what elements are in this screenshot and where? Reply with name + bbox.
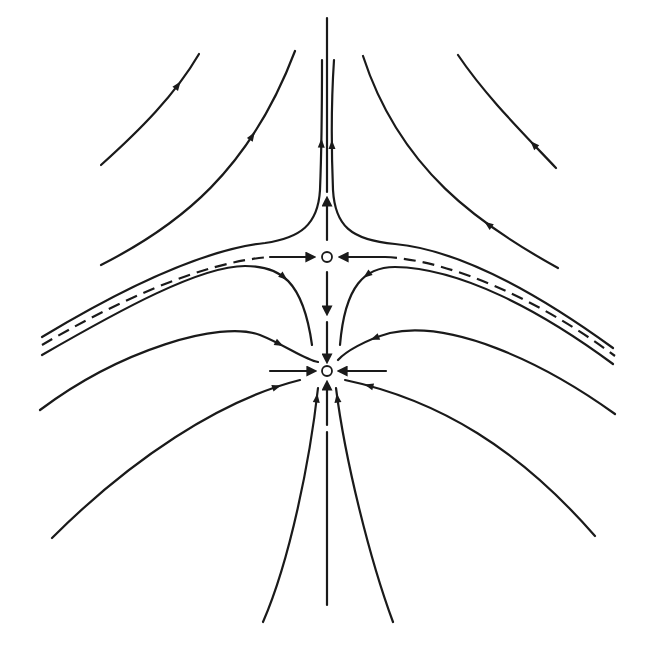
arrowhead-icon — [318, 139, 325, 148]
traj-lower-left-2 — [52, 380, 300, 538]
saddle-point — [322, 252, 332, 262]
traj-lower-right-2 — [345, 380, 595, 536]
arrowhead-icon — [369, 333, 380, 343]
phase-portrait-svg — [0, 0, 653, 658]
traj-lower-right-1 — [338, 331, 615, 414]
arrowhead-icon — [313, 393, 321, 403]
phase-portrait-figure — [0, 0, 653, 658]
traj-upper-left-mid — [101, 51, 295, 265]
arrowhead-icon — [271, 382, 282, 391]
traj-lower-left-3 — [263, 388, 318, 622]
traj-upper-right-mid — [363, 56, 558, 268]
traj-left-band-upper — [42, 60, 322, 337]
traj-right-band-upper — [332, 60, 613, 348]
traj-right-band-lower — [340, 267, 613, 364]
traj-upper-left-outer — [101, 54, 199, 165]
arrowhead-icon — [328, 140, 335, 149]
arrowhead-icon — [274, 339, 285, 349]
traj-lower-right-3 — [336, 388, 393, 622]
stable-node — [322, 366, 332, 376]
traj-upper-right-outer — [458, 55, 556, 168]
